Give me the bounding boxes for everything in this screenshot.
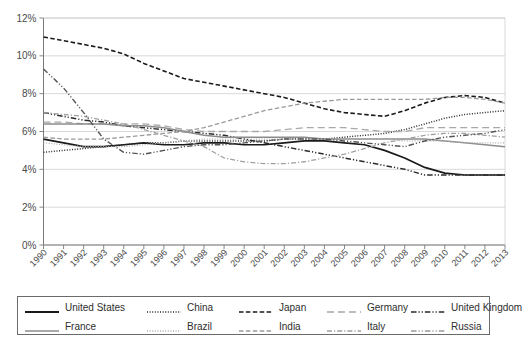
legend-item-label: Italy — [367, 322, 385, 332]
legend-item: Germany — [326, 298, 410, 317]
y-axis-tick-label: 8% — [22, 88, 37, 99]
x-axis-tick-label: 1993 — [88, 247, 109, 268]
x-axis-tick-label: 2004 — [309, 247, 330, 268]
x-axis-tick-label: 1996 — [148, 247, 169, 268]
x-axis-tick-label: 1997 — [168, 247, 189, 268]
x-axis-tick-label: 2002 — [268, 247, 289, 268]
x-axis-tick-label: 2009 — [409, 247, 430, 268]
legend-line-sample-icon — [410, 322, 446, 332]
y-axis-tick-label: 12% — [16, 13, 36, 24]
y-axis-tick-label: 6% — [22, 126, 37, 137]
legend-item-label: India — [279, 322, 301, 332]
x-axis-tick-label: 2011 — [450, 247, 471, 268]
x-axis-tick-label: 2008 — [389, 247, 410, 268]
y-axis-tick-label: 0% — [22, 240, 37, 251]
legend-item: China — [146, 298, 238, 317]
x-axis-tick-label: 1998 — [188, 247, 209, 268]
legend-item: France — [24, 317, 146, 336]
x-axis-tick-label: 2000 — [228, 247, 249, 268]
x-axis-tick-label: 2006 — [349, 247, 370, 268]
legend-item-label: United Kingdom — [451, 303, 522, 313]
x-axis-tick-label: 2013 — [489, 247, 510, 268]
legend-line-sample-icon — [238, 303, 274, 313]
chart-canvas: 0%2%4%6%8%10%12%199019911992199319941995… — [0, 0, 513, 290]
legend-item: United States — [24, 298, 146, 317]
legend-line-sample-icon — [326, 303, 362, 313]
x-axis-tick-label: 1992 — [68, 247, 89, 268]
y-axis-tick-label: 10% — [16, 50, 36, 61]
legend-item: Russia — [410, 317, 494, 336]
legend-line-sample-icon — [24, 303, 60, 313]
x-axis-tick-label: 2001 — [248, 247, 269, 268]
x-axis-tick-label: 1991 — [48, 247, 69, 268]
x-axis-tick-label: 2010 — [429, 247, 450, 268]
legend-line-sample-icon — [24, 322, 60, 332]
legend-item: Brazil — [146, 317, 238, 336]
legend-line-sample-icon — [146, 303, 182, 313]
legend-item: India — [238, 317, 326, 336]
x-axis-tick-label: 1994 — [108, 247, 129, 268]
legend-item-label: United States — [65, 303, 125, 313]
legend-line-sample-icon — [238, 322, 274, 332]
y-axis-tick-label: 2% — [22, 202, 37, 213]
legend-item-label: Japan — [279, 303, 306, 313]
legend-line-sample-icon — [326, 322, 362, 332]
legend-item-label: Germany — [367, 303, 408, 313]
legend-item-label: France — [65, 322, 96, 332]
legend-item: Italy — [326, 317, 410, 336]
legend-item-label: Russia — [451, 322, 482, 332]
x-axis-tick-label: 2007 — [369, 247, 390, 268]
y-axis-tick-label: 4% — [22, 164, 37, 175]
legend-item: Japan — [238, 298, 326, 317]
x-axis-tick-label: 2012 — [469, 247, 490, 268]
x-axis-tick-label: 2003 — [289, 247, 310, 268]
line-chart: 0%2%4%6%8%10%12%199019911992199319941995… — [0, 0, 513, 290]
legend-line-sample-icon — [146, 322, 182, 332]
x-axis-tick-label: 1990 — [28, 247, 49, 268]
legend-item-label: Brazil — [187, 322, 212, 332]
legend-line-sample-icon — [410, 303, 446, 313]
legend-item-label: China — [187, 303, 213, 313]
chart-legend: United StatesChinaJapanGermanyUnited Kin… — [17, 296, 490, 335]
x-axis-tick-label: 2005 — [329, 247, 350, 268]
legend-item: United Kingdom — [410, 298, 494, 317]
x-axis-tick-label: 1995 — [128, 247, 149, 268]
x-axis-tick-label: 1999 — [208, 247, 229, 268]
